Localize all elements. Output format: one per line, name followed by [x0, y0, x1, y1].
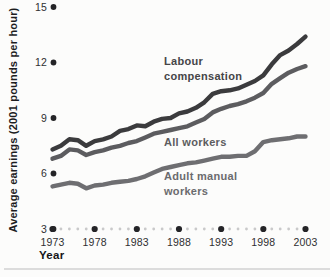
x-minor-dot: [85, 228, 88, 231]
x-tick-dot: [134, 226, 140, 232]
x-minor-dot: [161, 228, 164, 231]
x-tick-dot: [92, 226, 98, 232]
x-minor-dot: [287, 228, 290, 231]
x-minor-dot: [279, 228, 282, 231]
x-minor-dot: [60, 228, 63, 231]
x-minor-dot: [119, 228, 122, 231]
x-minor-dot: [110, 228, 113, 231]
x-tick-dot: [260, 226, 266, 232]
x-minor-dot: [194, 228, 197, 231]
x-tick-label: 1973: [40, 236, 64, 248]
series-label-all-workers: All workers: [164, 135, 279, 150]
bottom-divider: [4, 268, 330, 270]
x-tick-dot: [176, 226, 182, 232]
x-tick-label: 1988: [167, 236, 191, 248]
x-minor-dot: [76, 228, 79, 231]
x-minor-dot: [270, 228, 273, 231]
y-tick-label: 6: [41, 167, 47, 179]
x-minor-dot: [254, 228, 257, 231]
x-minor-dot: [228, 228, 231, 231]
x-minor-dot: [152, 228, 155, 231]
y-tick-label: 15: [35, 1, 47, 13]
y-tick-dot: [51, 115, 57, 121]
x-tick-label: 1978: [83, 236, 107, 248]
x-minor-dot: [237, 228, 240, 231]
x-minor-dot: [245, 228, 248, 231]
x-tick-dot: [302, 226, 308, 232]
series-label-adult-manual-workers: Adult manual workers: [164, 169, 256, 199]
x-tick-dot: [49, 226, 55, 232]
x-minor-dot: [127, 228, 130, 231]
earnings-line-chart: Average earnings (2001 pounds per hour) …: [0, 0, 330, 277]
y-tick-dot: [51, 4, 57, 10]
x-minor-dot: [186, 228, 189, 231]
x-tick-label: 1983: [125, 236, 149, 248]
y-tick-dot: [51, 171, 57, 177]
x-minor-dot: [102, 228, 105, 231]
x-minor-dot: [211, 228, 214, 231]
y-tick-dot: [51, 60, 57, 66]
x-axis-title: Year: [39, 249, 65, 261]
y-tick-label: 3: [41, 223, 47, 235]
x-minor-dot: [296, 228, 299, 231]
y-tick-label: 9: [41, 112, 47, 124]
x-tick-dot: [218, 226, 224, 232]
y-tick-label: 12: [35, 56, 47, 68]
x-minor-dot: [68, 228, 71, 231]
x-tick-label: 1993: [209, 236, 233, 248]
x-minor-dot: [203, 228, 206, 231]
x-minor-dot: [169, 228, 172, 231]
x-tick-label: 2003: [293, 236, 317, 248]
x-minor-dot: [144, 228, 147, 231]
x-tick-label: 1998: [251, 236, 275, 248]
series-label-labour-compensation: Labour compensation: [164, 54, 264, 84]
